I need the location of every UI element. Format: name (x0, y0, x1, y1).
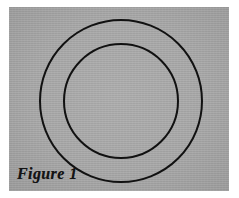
figure-root: Figure 1 (0, 0, 239, 198)
figure-caption: Figure 1 (17, 164, 78, 184)
inner-circle (64, 44, 178, 158)
